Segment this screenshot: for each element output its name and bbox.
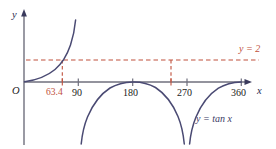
x-tick-label-360: 360: [231, 88, 246, 98]
x-tick-label-270: 270: [177, 88, 192, 98]
intersection-x-label-63-4: 63.4: [46, 88, 63, 98]
curve-label-y-equals-tan-x: y = tan x: [196, 114, 232, 124]
x-tick-label-180: 180: [123, 88, 138, 98]
x-axis-label: x: [257, 86, 262, 97]
y-axis-label: y: [12, 10, 17, 21]
y-axis: [21, 9, 27, 145]
intersection-drop-lines: [62, 60, 171, 82]
tan-branch-1: [25, 20, 76, 82]
tangent-graph-figure: y x O 90 180 270 360 63.4 y = 2 y = tan …: [0, 0, 276, 149]
plot-canvas: [0, 0, 276, 149]
x-tick-label-90: 90: [72, 88, 82, 98]
origin-label: O: [12, 86, 20, 97]
line-label-y-equals-2: y = 2: [239, 44, 260, 54]
